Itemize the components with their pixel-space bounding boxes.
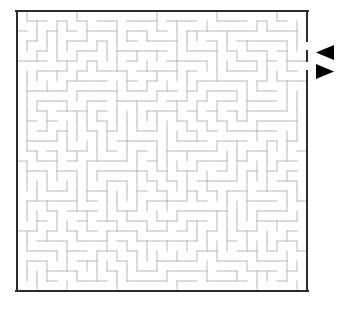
maze-markers [316, 45, 334, 79]
maze-figure [0, 0, 348, 313]
exit-arrow [316, 64, 334, 79]
entrance-arrow [316, 45, 334, 60]
maze-interior-walls [17, 11, 307, 291]
maze-canvas [0, 0, 348, 313]
